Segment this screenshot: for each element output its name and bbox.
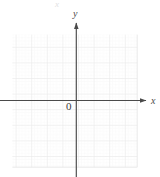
origin-label: 0 — [66, 101, 72, 112]
coordinate-plane-svg — [0, 0, 160, 177]
scan-artifact-glyph: x — [55, 0, 59, 9]
coordinate-plane-figure: x y x 0 — [0, 0, 160, 177]
x-axis-label: x — [151, 96, 155, 106]
y-axis-label: y — [73, 9, 77, 19]
